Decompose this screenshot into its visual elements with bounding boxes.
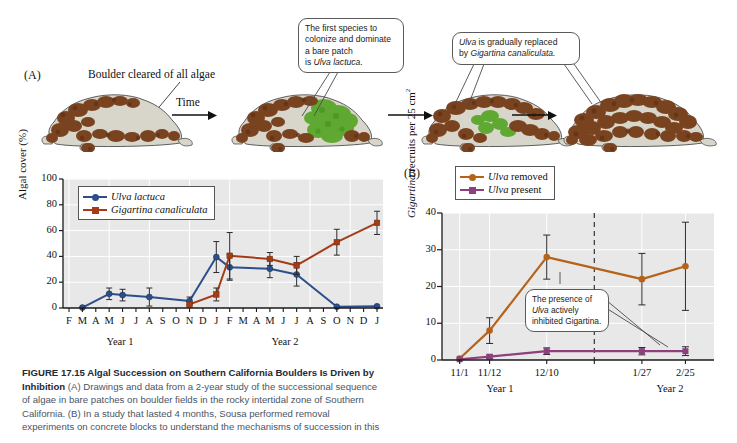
caption-b-tag: (B) [68,408,81,419]
caption-figure-number: FIGURE 17.15 [22,367,85,378]
caption-a-tag: (A) [68,381,81,392]
panel-b-ytick-40: 40 [410,206,436,217]
panel-a-xtick-11: J [209,315,223,326]
panel-a-legend: Ulva lactuca Gigartina canaliculata [78,186,215,220]
panel-a-xtick-3: M [102,315,116,326]
callout1-species: Ulva lactuca. [314,57,363,67]
callout1-line3: a bare patch [305,46,397,57]
panel-a-xtick-23: J [370,315,384,326]
panel-b-year2-label: Year 2 [640,383,700,394]
figure-root: (A) Boulder cleared of all algae [0,0,737,443]
legend-item-gigartina[interactable]: Gigartina canaliculata [83,203,208,216]
panel-a-ytick-0: 0 [29,301,57,312]
panel-a-xtick-16: J [276,315,290,326]
panel-b-plot-area [442,213,714,360]
panel-a-xtick-15: M [263,315,277,326]
callout1-line4: is Ulva lactuca. [305,57,397,68]
panel-a-xtick-14: A [249,315,263,326]
callout2-line1-rest: is gradually replaced [476,37,557,47]
legend-label-ulva-removed: Ulva removed [488,171,548,182]
callout1-prefix: is [305,57,314,67]
panel-b-y-axis-title: Gigartina recruits per 25 cm2 [404,89,417,218]
panel-a-xtick-19: S [316,315,330,326]
panel-a-xtick-5: J [129,315,143,326]
time-arrow-icon [172,110,218,122]
panel-b-year1-label: Year 1 [470,383,530,394]
panel-b-xtick-1: 11/12 [471,367,509,378]
callout1-line2: colonize and dominate [305,34,397,45]
callout-gigartina: Ulva is gradually replaced by Gigartina … [452,32,580,65]
panel-a-xtick-2: A [89,315,103,326]
legend-swatch-ulva-removed [460,172,484,181]
callout2-species2: Gigartina canaliculata. [470,48,555,58]
panel-b-legend: Ulva removed Ulva present [455,166,555,200]
panel-a-xtick-21: N [343,315,357,326]
panel-a-xtick-20: O [330,315,344,326]
panel-a-label: (A) [24,68,41,83]
annotB-line3: inhibited Gigartina. [532,316,602,327]
panel-a-year2-label: Year 2 [250,336,320,347]
boulder-illustration-2 [228,86,388,152]
panel-a-year1-label: Year 1 [85,336,155,347]
panel-a-xtick-10: D [196,315,210,326]
legend-label-gigartina: Gigartina canaliculata [111,204,208,215]
legend-item-ulva-removed[interactable]: Ulva removed [460,170,548,183]
panel-a-ytick-20: 20 [29,275,57,286]
time-arrow-label: Time [176,96,200,108]
panel-a-y-axis-title: Algal cover (%) [16,186,28,200]
panel-b-ytick-0: 0 [410,353,436,364]
arrow-3-icon [512,110,558,122]
panel-b-annotation: The presence of Ulva actively inhibited … [525,289,609,332]
legend-swatch-ulva-present [460,185,484,194]
callout-ulva-lactuca: The first species to colonize and domina… [298,18,404,73]
panel-a-xtick-18: A [303,315,317,326]
legend-item-ulva-lactuca[interactable]: Ulva lactuca [83,190,208,203]
callout2-line2-pre: by [459,48,470,58]
boulder-illustration-4 [560,86,722,152]
callout2-line1: Ulva is gradually replaced [459,37,573,48]
panel-b-xtick-3: 1/27 [623,367,661,378]
panel-a-xtick-9: N [183,315,197,326]
callout2-line2: by Gigartina canaliculata. [459,48,573,59]
legend-label-ulva-lactuca: Ulva lactuca [111,191,165,202]
annotB-line1: The presence of [532,294,602,305]
boulder-cleared-label: Boulder cleared of all algae [88,68,215,80]
panel-a-ytick-100: 100 [29,172,57,183]
figure-caption: FIGURE 17.15 Algal Succession on Souther… [22,366,382,434]
annotB-line2: Ulva actively [532,305,602,316]
legend-item-ulva-present[interactable]: Ulva present [460,183,548,196]
annotB-line2-rest: actively [549,305,579,315]
panel-a-xtick-6: A [142,315,156,326]
panel-b-xtick-2: 12/10 [528,367,566,378]
panel-a-xtick-4: J [116,315,130,326]
panel-a-xtick-12: F [223,315,237,326]
callout2-species1: Ulva [459,37,476,47]
panel-a-xtick-0: F [62,315,76,326]
panel-a-ytick-60: 60 [29,224,57,235]
legend-swatch-gigartina [83,205,107,214]
annotB-italic: Ulva [532,305,549,315]
legend-swatch-ulva-lactuca [83,192,107,201]
panel-a-xtick-7: S [156,315,170,326]
panel-a-ytick-40: 40 [29,249,57,260]
panel-b-ytick-30: 30 [410,243,436,254]
panel-a-xtick-22: D [357,315,371,326]
panel-b-ytick-20: 20 [410,280,436,291]
panel-a-ytick-80: 80 [29,198,57,209]
callout1-line1: The first species to [305,23,397,34]
legend-label-ulva-present: Ulva present [488,184,541,195]
panel-a-xtick-1: M [75,315,89,326]
panel-a-xtick-17: J [290,315,304,326]
panel-a-xtick-8: O [169,315,183,326]
panel-b-xtick-4: 2/25 [666,367,704,378]
panel-b-ytick-10: 10 [410,316,436,327]
panel-a-xtick-13: M [236,315,250,326]
